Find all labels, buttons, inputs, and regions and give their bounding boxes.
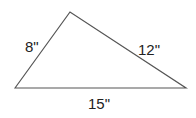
triangle-diagram: 8" 12" 15" xyxy=(0,0,196,118)
right-side-label: 12" xyxy=(138,41,160,58)
left-side-label: 8" xyxy=(25,38,39,55)
base-label: 15" xyxy=(88,95,110,112)
triangle-shape xyxy=(15,12,186,88)
